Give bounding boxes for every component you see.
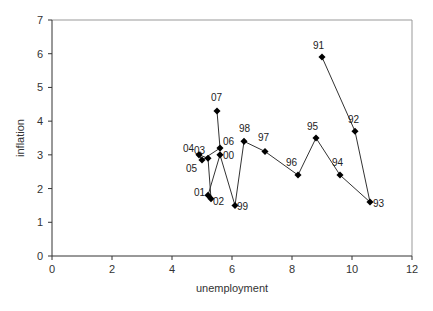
data-point-label: 96 bbox=[286, 157, 298, 168]
data-series: 9192939495969798990001020304050607 bbox=[183, 40, 385, 212]
y-tick-label: 3 bbox=[37, 149, 43, 161]
y-axis-title: inflation bbox=[14, 119, 26, 157]
data-point-marker bbox=[294, 172, 301, 179]
data-point-label: 92 bbox=[348, 114, 360, 125]
data-point-label: 95 bbox=[307, 121, 319, 132]
y-tick-label: 2 bbox=[37, 183, 43, 195]
data-point-marker bbox=[312, 134, 319, 141]
data-point-label: 02 bbox=[213, 196, 225, 207]
data-point-marker bbox=[213, 107, 220, 114]
y-tick-label: 5 bbox=[37, 81, 43, 93]
data-point-marker bbox=[318, 54, 325, 61]
x-axis-title: unemployment bbox=[196, 282, 268, 294]
x-tick-label: 12 bbox=[406, 263, 418, 275]
x-tick-label: 4 bbox=[169, 263, 175, 275]
data-point-label: 99 bbox=[237, 201, 249, 212]
x-tick-label: 10 bbox=[346, 263, 358, 275]
data-point-label: 97 bbox=[258, 132, 270, 143]
scatter-line-chart: 01234567024681012 9192939495969798990001… bbox=[0, 0, 433, 311]
data-point-marker bbox=[240, 138, 247, 145]
y-tick-label: 1 bbox=[37, 216, 43, 228]
x-tick-label: 2 bbox=[109, 263, 115, 275]
data-point-label: 91 bbox=[313, 40, 325, 51]
y-tick-label: 7 bbox=[37, 14, 43, 26]
data-point-label: 94 bbox=[332, 157, 344, 168]
y-tick-label: 4 bbox=[37, 115, 43, 127]
x-tick-label: 6 bbox=[229, 263, 235, 275]
data-point-label: 05 bbox=[186, 163, 198, 174]
series-line bbox=[199, 57, 370, 205]
data-point-label: 01 bbox=[194, 187, 206, 198]
y-tick-label: 6 bbox=[37, 48, 43, 60]
y-tick-label: 0 bbox=[37, 250, 43, 262]
data-point-marker bbox=[204, 155, 211, 162]
data-point-label: 93 bbox=[373, 198, 385, 209]
data-point-marker bbox=[261, 148, 268, 155]
data-point-label: 04 bbox=[183, 143, 195, 154]
x-tick-label: 8 bbox=[289, 263, 295, 275]
data-point-label: 00 bbox=[223, 150, 235, 161]
x-tick-label: 0 bbox=[49, 263, 55, 275]
data-point-label: 07 bbox=[211, 92, 223, 103]
data-point-marker bbox=[351, 128, 358, 135]
data-point-label: 06 bbox=[223, 136, 235, 147]
data-point-label: 98 bbox=[239, 123, 251, 134]
